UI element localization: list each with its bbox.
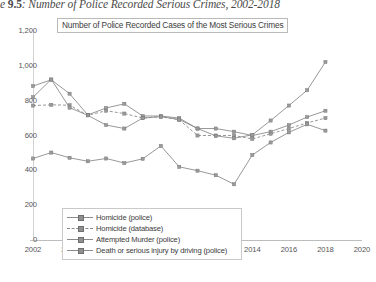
data-point <box>159 144 162 147</box>
legend-item-0[interactable]: Homicide (police) <box>67 212 237 223</box>
data-point <box>86 160 89 163</box>
data-point <box>31 157 34 160</box>
data-point <box>287 123 290 126</box>
data-point <box>324 129 327 132</box>
line-chart: Number of Police Recorded Cases of the M… <box>0 12 376 282</box>
series-line-0 <box>33 80 325 136</box>
data-point <box>105 157 108 160</box>
legend-label-0: Homicide (police) <box>93 213 152 222</box>
data-point <box>306 89 309 92</box>
data-point <box>324 60 327 63</box>
data-point <box>123 161 126 164</box>
data-point <box>50 103 53 106</box>
data-point <box>269 141 272 144</box>
data-point <box>68 156 71 159</box>
legend-item-3[interactable]: Death or serious injury by driving (poli… <box>67 245 237 256</box>
figure-number: 9.5 <box>8 0 22 10</box>
series-3 <box>31 123 327 186</box>
data-point <box>251 137 254 140</box>
data-point <box>251 133 254 136</box>
data-point <box>123 127 126 130</box>
legend-item-1[interactable]: Homicide (database) <box>67 223 237 234</box>
data-point <box>196 134 199 137</box>
data-point <box>287 131 290 134</box>
data-point <box>68 106 71 109</box>
data-point <box>159 115 162 118</box>
series-line-1 <box>33 105 325 139</box>
data-point <box>324 109 327 112</box>
data-point <box>196 169 199 172</box>
legend-swatch-icon <box>67 224 93 233</box>
data-point <box>287 127 290 130</box>
data-point <box>141 116 144 119</box>
data-point <box>178 165 181 168</box>
series-0 <box>31 78 327 137</box>
data-point <box>232 183 235 186</box>
data-point <box>287 104 290 107</box>
data-point <box>68 92 71 95</box>
data-point <box>105 109 108 112</box>
chart-legend: Homicide (police)Homicide (database)Atte… <box>62 208 242 260</box>
data-point <box>31 104 34 107</box>
data-point <box>105 123 108 126</box>
data-point <box>123 112 126 115</box>
data-point <box>123 102 126 105</box>
data-point <box>306 123 309 126</box>
legend-label-1: Homicide (database) <box>93 224 163 233</box>
figure-caption: e 9.5: Number of Police Recorded Serious… <box>0 0 280 10</box>
legend-label-2: Attempted Murder (police) <box>93 235 180 244</box>
series-line-2 <box>33 62 325 138</box>
data-point <box>50 78 53 81</box>
data-point <box>232 137 235 140</box>
data-point <box>306 115 309 118</box>
data-point <box>269 119 272 122</box>
data-point <box>31 84 34 87</box>
data-point <box>214 134 217 137</box>
figure-caption-text: : Number of Police Recorded Serious Crim… <box>22 0 280 10</box>
data-point <box>141 157 144 160</box>
series-1 <box>31 103 327 140</box>
data-point <box>269 132 272 135</box>
data-point <box>178 118 181 121</box>
data-point <box>196 127 199 130</box>
figure-caption-prefix: e <box>0 0 8 10</box>
data-point <box>324 116 327 119</box>
data-point <box>86 114 89 117</box>
legend-swatch-icon <box>67 235 93 244</box>
data-point <box>214 174 217 177</box>
legend-label-3: Death or serious injury by driving (poli… <box>93 246 227 255</box>
legend-swatch-icon <box>67 246 93 255</box>
data-point <box>214 127 217 130</box>
data-point <box>232 130 235 133</box>
data-point <box>31 96 34 99</box>
legend-swatch-icon <box>67 213 93 222</box>
data-point <box>251 153 254 156</box>
data-point <box>50 151 53 154</box>
series-2 <box>31 60 327 139</box>
series-line-3 <box>33 124 325 184</box>
legend-item-2[interactable]: Attempted Murder (police) <box>67 234 237 245</box>
